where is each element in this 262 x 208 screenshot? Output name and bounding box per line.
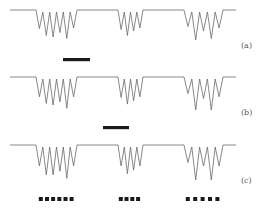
marker-square xyxy=(119,197,123,201)
panel-b: (b) xyxy=(10,77,252,129)
marker-square xyxy=(130,197,134,201)
marker-square xyxy=(45,197,49,201)
panel-label-b: (b) xyxy=(241,108,252,117)
marker-square xyxy=(57,197,61,201)
waveform-figure: (a) (b) (c) xyxy=(0,0,262,208)
scale-bar-a xyxy=(63,58,90,61)
panel-a: (a) xyxy=(10,10,252,61)
marker-square xyxy=(51,197,55,201)
marker-square xyxy=(186,197,190,201)
trace-a xyxy=(10,10,236,40)
panel-label-a: (a) xyxy=(241,41,252,50)
panel-label-c: (c) xyxy=(241,176,252,185)
marker-square xyxy=(136,197,140,201)
scale-bar-b xyxy=(103,126,129,129)
marker-square xyxy=(39,197,43,201)
marker-square xyxy=(70,197,74,201)
marker-square xyxy=(193,197,197,201)
dotted-marker-c xyxy=(39,197,220,201)
trace-b xyxy=(10,77,236,110)
panel-c: (c) xyxy=(10,145,252,201)
marker-square xyxy=(201,197,205,201)
marker-square xyxy=(64,197,68,201)
trace-c xyxy=(10,145,236,180)
marker-square xyxy=(208,197,212,201)
marker-square xyxy=(125,197,129,201)
marker-square xyxy=(215,197,219,201)
